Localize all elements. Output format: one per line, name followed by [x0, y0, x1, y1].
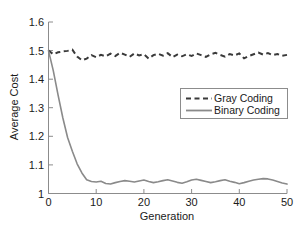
y-axis-title: Average Cost: [8, 74, 20, 140]
chart-figure: 1 1.1 1.2 1.3 1.4 1.5 1.6 0 10 20 30 40 …: [0, 0, 305, 233]
legend-label: Gray Coding: [214, 92, 273, 104]
x-tick-label: 20: [138, 196, 150, 208]
y-tick-label: 1: [38, 188, 44, 200]
y-tick-label: 1.5: [29, 45, 44, 57]
legend-label: Binary Coding: [214, 104, 280, 116]
x-tick-label: 0: [45, 196, 51, 208]
x-tick-label: 40: [233, 196, 245, 208]
y-tick-label: 1.1: [29, 159, 44, 171]
x-tick-label: 30: [185, 196, 197, 208]
chart-legend: Gray Coding Binary Coding: [181, 89, 288, 119]
x-tick-label: 50: [281, 196, 293, 208]
y-tick-label: 1.2: [29, 130, 44, 142]
y-tick-label: 1.6: [29, 16, 44, 28]
y-tick-label: 1.3: [29, 102, 44, 114]
x-axis-title: Generation: [140, 210, 194, 222]
y-tick-label: 1.4: [29, 73, 44, 85]
x-tick-label: 10: [90, 196, 102, 208]
average-cost-line-chart: 1 1.1 1.2 1.3 1.4 1.5 1.6 0 10 20 30 40 …: [0, 0, 305, 233]
